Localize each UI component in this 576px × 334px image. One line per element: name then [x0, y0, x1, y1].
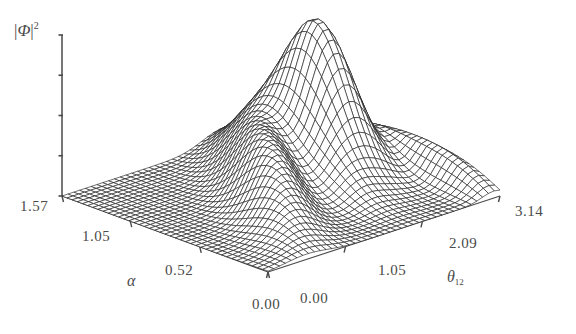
surface-plot-figure: |Φ|2 1.57 1.05 0.52 0.00 α 0.00 1.05 2.0…: [0, 0, 576, 334]
theta-tick-label-209: 2.09: [449, 235, 477, 252]
alpha-tick-label-000: 0.00: [252, 296, 280, 313]
theta-tick-label-314: 3.14: [515, 203, 543, 220]
mesh-surface: [62, 19, 500, 271]
theta-subscript: 12: [455, 277, 464, 287]
alpha-tick-label-052: 0.52: [165, 262, 193, 279]
z-axis-label: |Φ|2: [14, 20, 39, 41]
theta-tick-label-000: 0.00: [300, 290, 328, 307]
alpha-tick-label-157: 1.57: [20, 198, 48, 215]
theta-tick-label-105: 1.05: [378, 262, 406, 279]
theta-symbol: θ: [447, 268, 455, 285]
alpha-tick-label-105: 1.05: [82, 228, 110, 245]
theta-axis-tick: [267, 272, 269, 278]
alpha-axis-name: α: [127, 272, 135, 290]
theta-axis-name: θ12: [447, 268, 464, 286]
surface-plot-canvas: [0, 0, 576, 334]
